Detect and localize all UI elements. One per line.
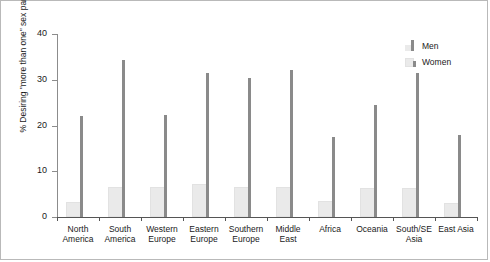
bar-group <box>351 34 393 217</box>
x-tick <box>99 217 100 221</box>
bar-men[interactable] <box>206 73 209 217</box>
bar-group <box>57 34 99 217</box>
x-tick <box>393 217 394 221</box>
bar-women[interactable] <box>234 187 249 217</box>
bar-group <box>141 34 183 217</box>
chart-legend: Men Women <box>405 39 451 71</box>
y-tick-label-30: 30 <box>5 74 47 84</box>
y-tick-label-0: 0 <box>5 211 47 221</box>
bar-women[interactable] <box>318 201 333 217</box>
x-tick <box>141 217 142 221</box>
bar-men[interactable] <box>458 135 461 217</box>
bar-group <box>225 34 267 217</box>
men-swatch-icon <box>405 40 418 51</box>
legend-item-women[interactable]: Women <box>405 55 451 68</box>
y-tick-label-40: 40 <box>5 28 47 38</box>
bar-men[interactable] <box>290 70 293 217</box>
bar-women[interactable] <box>360 188 375 217</box>
x-tick <box>225 217 226 221</box>
bar-men[interactable] <box>164 115 167 217</box>
chart-figure: % Desiring "more than one" sex partner 0… <box>0 0 488 260</box>
y-tick-label-20: 20 <box>5 120 47 130</box>
bar-group <box>183 34 225 217</box>
bar-women[interactable] <box>192 184 207 217</box>
x-tick <box>351 217 352 221</box>
legend-label-men: Men <box>422 41 439 51</box>
x-tick <box>477 217 478 221</box>
bar-women[interactable] <box>66 202 81 217</box>
x-tick <box>183 217 184 221</box>
bar-men[interactable] <box>374 105 377 217</box>
legend-item-men[interactable]: Men <box>405 39 451 52</box>
bar-men[interactable] <box>416 73 419 217</box>
bar-group <box>99 34 141 217</box>
bar-men[interactable] <box>80 116 83 217</box>
women-swatch-icon <box>405 56 418 67</box>
bar-men[interactable] <box>332 137 335 217</box>
y-tick-label-10: 10 <box>5 165 47 175</box>
x-tick <box>435 217 436 221</box>
bar-women[interactable] <box>444 203 459 217</box>
bar-group <box>267 34 309 217</box>
x-axis-category-label: East Asia <box>429 224 483 234</box>
x-tick <box>267 217 268 221</box>
bar-group <box>309 34 351 217</box>
x-tick <box>309 217 310 221</box>
legend-label-women: Women <box>422 57 451 67</box>
x-tick <box>57 217 58 221</box>
bar-women[interactable] <box>108 187 123 217</box>
bar-men[interactable] <box>248 78 251 217</box>
bar-women[interactable] <box>402 188 417 217</box>
bar-women[interactable] <box>150 187 165 217</box>
bar-men[interactable] <box>122 60 125 217</box>
bar-women[interactable] <box>276 187 291 217</box>
